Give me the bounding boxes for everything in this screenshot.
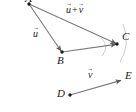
vector-label-u-plus-v-second: v	[79, 5, 83, 15]
point-label-B: B	[57, 55, 64, 66]
vector-label-u-plus-v-first: u	[66, 5, 71, 15]
figure-canvas	[0, 0, 136, 112]
point-C-dot	[115, 42, 118, 45]
vector-addition-figure: A B C D E u u+v v	[0, 0, 136, 112]
vector-label-u-plus-v: u+v	[66, 5, 83, 15]
segment-b-to-c-line	[62, 44, 116, 52]
vector-label-v: v	[88, 70, 92, 80]
point-label-C: C	[122, 31, 129, 42]
point-label-E: E	[125, 70, 132, 81]
point-label-A: A	[25, 0, 32, 4]
point-label-D: D	[57, 88, 65, 99]
construction-arc-left	[101, 38, 106, 56]
vector-v-line	[70, 80, 121, 95]
point-D-dot	[68, 93, 71, 96]
vector-label-v-letter: v	[88, 70, 92, 80]
vector-label-u-letter: u	[33, 29, 38, 39]
vector-label-u: u	[33, 29, 38, 39]
